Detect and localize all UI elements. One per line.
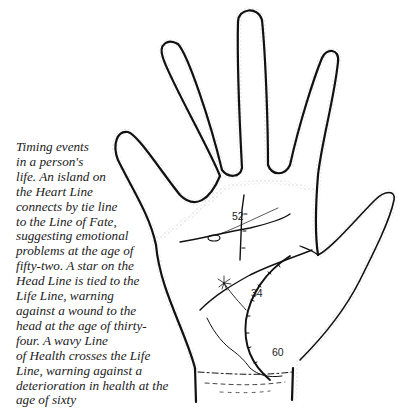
age-marker-34: 34 xyxy=(251,287,263,299)
age-marker-52: 52 xyxy=(232,210,244,222)
palm-illustration: 52 34 60 xyxy=(0,0,408,417)
hand-outline xyxy=(115,10,394,402)
fate-line xyxy=(240,195,244,260)
head-line xyxy=(200,250,312,310)
health-line xyxy=(207,318,282,377)
palm-lines xyxy=(180,195,312,380)
age-marker-60: 60 xyxy=(272,346,284,358)
heart-line-island xyxy=(208,235,220,241)
